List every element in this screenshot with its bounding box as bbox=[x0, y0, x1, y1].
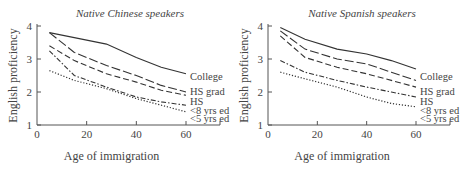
x-tick-label: 20 bbox=[312, 128, 324, 140]
chart-canvas: Native Chinese speakers12340204060Age of… bbox=[0, 0, 463, 169]
y-tick-label: 3 bbox=[258, 53, 264, 65]
y-tick-label: 4 bbox=[258, 20, 264, 32]
chart-title: Native Chinese speakers bbox=[75, 7, 184, 19]
x-tick-label: 20 bbox=[81, 128, 93, 140]
x-tick-label: 60 bbox=[181, 128, 193, 140]
series-line bbox=[280, 61, 416, 97]
y-tick-label: 2 bbox=[27, 86, 33, 98]
x-tick-label: 60 bbox=[411, 128, 423, 140]
x-axis-label: Age of immigration bbox=[294, 149, 389, 163]
series-line bbox=[49, 51, 186, 105]
chart-panel-1: Native Chinese speakers12340204060Age of… bbox=[6, 7, 230, 163]
series-label: <5 yrs ed bbox=[420, 113, 460, 124]
y-axis-label: English proficiency bbox=[6, 28, 20, 122]
y-tick-label: 2 bbox=[258, 86, 264, 98]
series-label: College bbox=[190, 71, 223, 82]
series-line bbox=[280, 28, 416, 69]
series-line bbox=[49, 33, 186, 92]
chart-panel-2: Native Spanish speakers12340204060Age of… bbox=[237, 7, 460, 163]
series-line bbox=[49, 33, 186, 74]
y-tick-label: 1 bbox=[27, 119, 33, 131]
y-tick-label: 1 bbox=[258, 119, 264, 131]
series-label: <5 yrs ed bbox=[190, 113, 230, 124]
series-line bbox=[280, 31, 416, 81]
y-tick-label: 3 bbox=[27, 53, 33, 65]
y-axis-label: English proficiency bbox=[237, 28, 251, 122]
x-tick-label: 0 bbox=[34, 128, 40, 140]
chart-title: Native Spanish speakers bbox=[307, 7, 416, 19]
x-tick-label: 40 bbox=[361, 128, 373, 140]
x-tick-label: 0 bbox=[265, 128, 271, 140]
series-line bbox=[280, 72, 416, 107]
y-tick-label: 4 bbox=[27, 20, 33, 32]
series-label: College bbox=[420, 71, 453, 82]
x-tick-label: 40 bbox=[131, 128, 143, 140]
x-axis-label: Age of immigration bbox=[64, 149, 159, 163]
